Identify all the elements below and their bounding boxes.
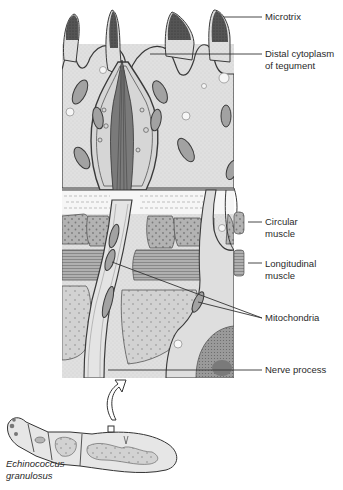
magnify-arrow bbox=[107, 380, 126, 420]
label-mitochondria: Mitochondria bbox=[265, 312, 319, 324]
label-species-line1: Echinococcus bbox=[6, 458, 65, 470]
adjacent-cell bbox=[234, 188, 244, 276]
label-circular-muscle: Circular muscle bbox=[265, 216, 298, 240]
label-species-line2: granulosus bbox=[6, 470, 65, 482]
label-circular-muscle-line1: Circular bbox=[265, 216, 298, 228]
label-microtrix: Microtrix bbox=[265, 11, 301, 23]
label-species: Echinococcus granulosus bbox=[6, 458, 65, 482]
label-distal-cytoplasm: Distal cytoplasm of tegument bbox=[265, 48, 334, 72]
tegument-diagram bbox=[0, 0, 343, 490]
label-longitudinal-muscle-line1: Longitudinal bbox=[265, 258, 316, 270]
label-circular-muscle-line2: muscle bbox=[265, 228, 298, 240]
label-distal-cytoplasm-line1: Distal cytoplasm bbox=[265, 48, 334, 60]
tegument-section bbox=[62, 0, 240, 378]
label-distal-cytoplasm-line2: of tegument bbox=[265, 60, 334, 72]
locator-square bbox=[108, 426, 114, 432]
label-longitudinal-muscle-line2: muscle bbox=[265, 270, 316, 282]
label-longitudinal-muscle: Longitudinal muscle bbox=[265, 258, 316, 282]
label-nerve-process: Nerve process bbox=[265, 364, 326, 376]
